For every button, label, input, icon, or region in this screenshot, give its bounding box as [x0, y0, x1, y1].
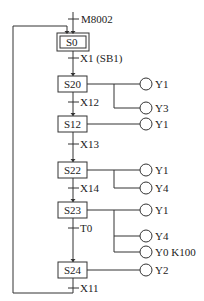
output-label: Y3	[155, 102, 169, 114]
transition-label: X12	[80, 96, 99, 108]
coil-icon	[140, 118, 152, 130]
coil-icon	[140, 164, 152, 176]
transition-label: T0	[80, 222, 93, 234]
step-label-s24: S24	[64, 264, 82, 276]
output-label: Y1	[155, 118, 168, 130]
step-label-s22: S22	[64, 164, 81, 176]
step-label-s12: S12	[64, 118, 81, 130]
output-label: Y2	[155, 264, 168, 276]
coil-icon	[140, 264, 152, 276]
transition-label: X1 (SB1)	[80, 52, 123, 65]
coil-icon	[140, 230, 152, 242]
output-label: Y1	[155, 78, 168, 90]
coil-icon	[140, 246, 152, 258]
init-condition-label: M8002	[81, 13, 113, 25]
transition-label: X14	[80, 182, 99, 194]
output-label: Y4	[155, 182, 169, 194]
transition-label: X11	[80, 282, 99, 294]
step-label-s23: S23	[64, 204, 82, 216]
step-label-s0: S0	[66, 36, 78, 48]
coil-icon	[140, 204, 152, 216]
output-label: Y1	[155, 204, 168, 216]
coil-icon	[140, 78, 152, 90]
output-label: Y0 K100	[155, 246, 196, 258]
output-label: Y1	[155, 164, 168, 176]
coil-icon	[140, 182, 152, 194]
step-label-s20: S20	[64, 78, 82, 90]
transition-label: X13	[80, 138, 99, 150]
coil-icon	[140, 102, 152, 114]
output-label: Y4	[155, 230, 169, 242]
sfc-diagram: M8002 S0 X1 (SB1) S20 X12 S12 X13 S22 X1…	[0, 0, 204, 301]
